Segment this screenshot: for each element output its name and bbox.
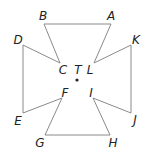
vertex-label-b: B [39, 9, 47, 23]
vertex-label-j: J [131, 113, 137, 127]
vertex-label-k: K [132, 33, 141, 47]
vertex-label-a: A [106, 9, 115, 23]
vertex-label-f: F [62, 86, 70, 100]
center-label-t: T [74, 63, 83, 77]
vertex-label-l: L [87, 63, 94, 77]
segment-bc [44, 24, 60, 63]
center-point-t [75, 78, 78, 81]
vertex-label-i: I [89, 86, 93, 100]
vertex-label-h: H [108, 136, 117, 150]
segment-al [94, 24, 111, 63]
segment-kl [94, 45, 131, 63]
vertex-label-g: G [35, 136, 44, 150]
vertex-label-e: E [14, 114, 22, 128]
segment-dc [23, 45, 60, 63]
vertex-label-c: C [59, 63, 68, 77]
vertex-label-d: D [13, 33, 22, 47]
geometry-diagram: ABCDEFGHIJKL T [0, 0, 147, 152]
